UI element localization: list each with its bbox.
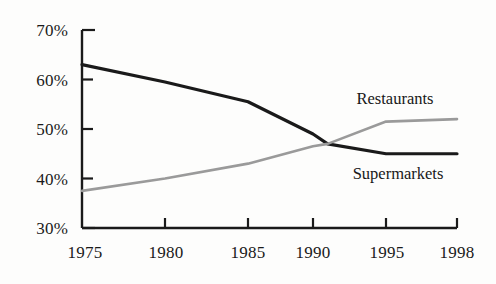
x-tick-label-1985: 1985 — [231, 244, 266, 261]
y-tick-label-60: 60% — [6, 71, 68, 88]
y-tick-label-70: 70% — [6, 22, 68, 39]
series-line-supermarkets — [82, 65, 457, 154]
chart-plot-area — [0, 0, 496, 284]
axis-layer — [82, 30, 457, 228]
y-tick-label-30: 30% — [6, 220, 68, 237]
line-chart: 70% 60% 50% 40% 30% 1975 1980 1985 1990 … — [0, 0, 496, 284]
x-tick-label-1975: 1975 — [68, 244, 103, 261]
x-tick-label-1980: 1980 — [149, 244, 184, 261]
x-tick-label-1995: 1995 — [370, 244, 405, 261]
y-tick-label-50: 50% — [6, 121, 68, 138]
x-tick-label-1998: 1998 — [440, 244, 475, 261]
series-label-supermarkets: Supermarkets — [353, 166, 444, 183]
series-label-restaurants: Restaurants — [357, 91, 434, 108]
x-tick-label-1990: 1990 — [296, 244, 331, 261]
y-tick-label-40: 40% — [6, 170, 68, 187]
